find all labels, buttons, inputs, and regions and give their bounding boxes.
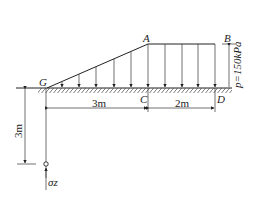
point-label-g: G [39, 76, 47, 88]
point-label-c: C [140, 93, 148, 105]
load-magnitude-label: p=150kPa [231, 41, 243, 89]
dimension-2m-label: 2m [175, 97, 190, 109]
dimension-depth-label: 3m [12, 124, 24, 139]
point-label-d: D [216, 93, 225, 105]
dimension-3m-label: 3m [92, 97, 107, 109]
stress-label: σz [48, 176, 58, 188]
point-label-a: A [142, 32, 150, 44]
ground-surface [16, 88, 232, 93]
point-label-b: B [224, 32, 231, 44]
load-arrows [62, 44, 215, 87]
stress-point-marker [44, 162, 48, 166]
load-diagram: p=150kPa G A B C D 3m 2m 3m σz [0, 0, 259, 199]
